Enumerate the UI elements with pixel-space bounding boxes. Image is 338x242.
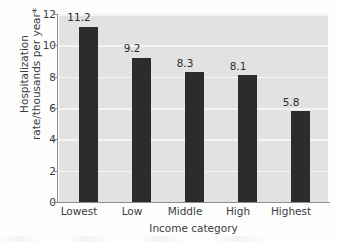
bar-value-lowest: 11.2 — [59, 12, 99, 23]
x-axis-title: Income category — [59, 222, 328, 234]
bar-value-highest: 5.8 — [271, 97, 311, 108]
x-tick-label-highest: Highest — [256, 205, 326, 217]
bar-value-low: 9.2 — [112, 43, 152, 54]
gridline-12 — [59, 14, 328, 16]
y-axis-title-line1: Hospitalization — [18, 35, 30, 113]
bar-highest — [291, 111, 310, 202]
bar-low — [132, 58, 151, 202]
bar-value-middle: 8.3 — [165, 58, 205, 69]
bar-lowest — [79, 27, 98, 203]
bar-high — [238, 75, 257, 202]
bar-value-high: 8.1 — [218, 61, 258, 72]
x-axis-line — [53, 202, 330, 203]
bar-middle — [185, 72, 204, 202]
scan-artifact — [0, 236, 338, 242]
bar-chart-figure: Hospitalization rate/thousands per year*… — [0, 0, 338, 242]
plot-area — [59, 14, 328, 202]
gridline-10 — [59, 45, 328, 47]
